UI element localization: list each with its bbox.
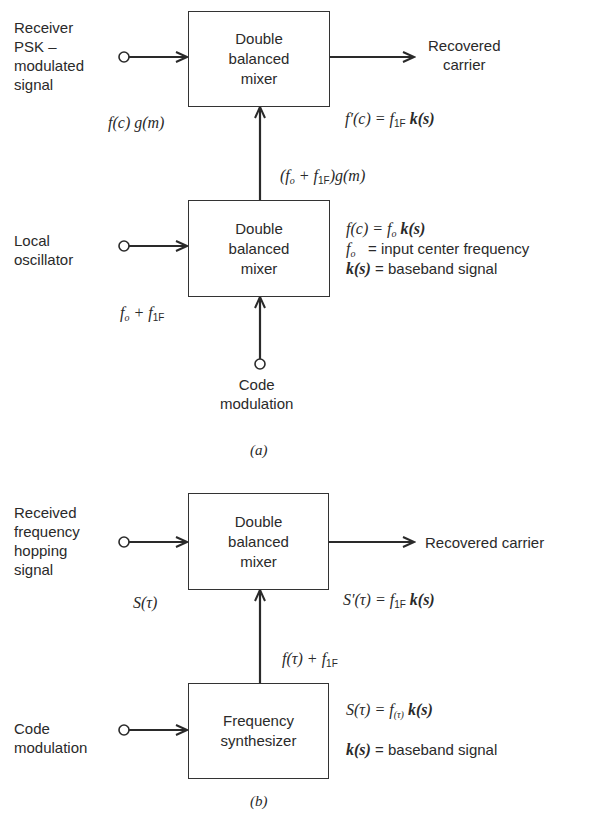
local-osc-terminal: [119, 241, 129, 251]
input-label-fh: Received frequency hopping signal: [14, 503, 80, 579]
code-mod-terminal-a: [255, 359, 265, 369]
def-ks-a: k(s) = baseband signal: [346, 259, 497, 278]
expr-s-tau: S(τ): [133, 593, 157, 612]
input-terminal-b: [119, 537, 129, 547]
output-label-a: Recovered carrier: [428, 36, 501, 74]
output-label-b: Recovered carrier: [425, 533, 544, 552]
expr-fo-plus-fif-gm: (fo + f1F)g(m): [280, 166, 365, 190]
synth-box-b: Frequency synthesizer: [188, 683, 329, 779]
expr-fo-plus-fif: fo + f1F: [120, 303, 164, 327]
mixer-box-a-bottom: Double balanced mixer: [188, 200, 330, 297]
mixer-box-a-top: Double balanced mixer: [188, 11, 330, 107]
expr-fprime-c: f′(c) = f1F k(s): [345, 109, 435, 133]
expr-fc-gm: f(c) g(m): [108, 113, 164, 132]
def-s-tau: S(τ) = f(τ) k(s): [346, 700, 433, 724]
mixer-box-b: Double balanced mixer: [188, 493, 329, 590]
expr-sprime-tau: S′(τ) = f1F k(s): [343, 590, 435, 614]
code-mod-terminal-b: [119, 725, 129, 735]
expr-f-tau-plus-fif: f(τ) + f1F: [282, 649, 338, 673]
code-mod-label-a: Code modulation: [220, 375, 293, 413]
input-label-psk: Receiver PSK – modulated signal: [14, 18, 84, 94]
local-osc-label: Local oscillator: [14, 231, 73, 269]
def-ks-b: k(s) = baseband signal: [346, 740, 497, 759]
code-mod-label-b: Code modulation: [14, 719, 87, 757]
input-terminal-a-top: [119, 52, 129, 62]
caption-a: (a): [250, 442, 268, 459]
caption-b: (b): [250, 793, 268, 810]
